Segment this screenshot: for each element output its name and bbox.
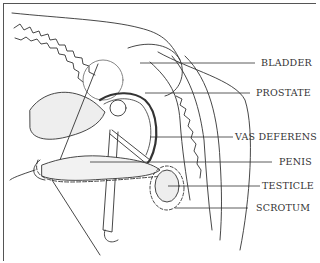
label-penis: PENIS — [279, 156, 312, 167]
label-scrotum: SCROTUM — [256, 202, 310, 213]
label-vas-deferens: VAS DEFERENS — [235, 131, 317, 142]
label-testicle: TESTICLE — [262, 180, 314, 191]
label-prostate: PROSTATE — [256, 87, 311, 98]
label-bladder: BLADDER — [261, 57, 312, 68]
